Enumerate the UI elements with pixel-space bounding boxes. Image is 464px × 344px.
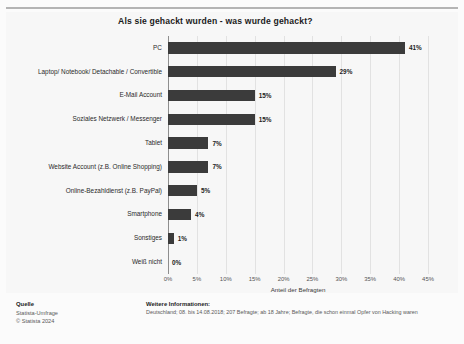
bar-row: E-Mail Account15% — [0, 84, 464, 108]
category-label: Tablet — [18, 139, 162, 147]
x-tick-label: 10% — [220, 276, 232, 282]
bar-value-label: 7% — [212, 163, 221, 170]
bar-row: Soziales Netzwerk / Messenger15% — [0, 107, 464, 131]
bar-series: PC41%Laptop/ Notebook/ Detachable / Conv… — [0, 36, 464, 274]
top-divider — [6, 7, 458, 9]
category-label: Smartphone — [18, 210, 162, 218]
bar-track: 4% — [168, 203, 204, 227]
category-label: Sonstiges — [18, 234, 162, 242]
bar-track: 0% — [168, 250, 181, 274]
bar-track: 29% — [168, 60, 352, 84]
bar-row: Website Account (z.B. Online Shopping)7% — [0, 155, 464, 179]
chart-card: Als sie gehackt wurden - was wurde gehac… — [0, 0, 464, 344]
bar-value-label: 29% — [340, 68, 353, 75]
source-name: Statista-Umfrage — [16, 309, 136, 317]
bar-track: 1% — [168, 226, 187, 250]
x-tick-label: 45% — [422, 276, 434, 282]
bar-value-label: 15% — [259, 116, 272, 123]
x-tick-label: 25% — [307, 276, 319, 282]
bar-row: Smartphone4% — [0, 203, 464, 227]
chart-title: Als sie gehackt wurden - was wurde gehac… — [118, 16, 378, 27]
notes-detail: Deutschland; 08. bis 14.08.2018; 207 Bef… — [146, 309, 458, 317]
category-label: Soziales Netzwerk / Messenger — [18, 115, 162, 123]
notes-heading: Weitere Informationen: — [146, 300, 458, 309]
bar — [168, 90, 255, 102]
bar-row: Laptop/ Notebook/ Detachable / Convertib… — [0, 60, 464, 84]
bar-value-label: 7% — [212, 140, 221, 147]
bar-value-label: 15% — [259, 92, 272, 99]
bar-value-label: 5% — [201, 187, 210, 194]
x-tick-label: 0% — [164, 276, 173, 282]
x-tick-label: 5% — [193, 276, 202, 282]
bar-track: 41% — [168, 36, 422, 60]
bar — [168, 185, 197, 197]
bar-row: PC41% — [0, 36, 464, 60]
bar — [168, 161, 208, 173]
x-axis-title: Anteil der Befragten — [168, 286, 428, 293]
bar-track: 7% — [168, 155, 222, 179]
bar — [168, 209, 191, 221]
bar-row: Tablet7% — [0, 131, 464, 155]
x-tick-label: 35% — [364, 276, 376, 282]
x-tick-label: 20% — [278, 276, 290, 282]
bar — [168, 137, 208, 149]
bar-value-label: 41% — [409, 44, 422, 51]
category-label: Weiß nicht — [18, 258, 162, 266]
bar-value-label: 0% — [172, 259, 181, 266]
category-label: PC — [18, 44, 162, 52]
x-tick-label: 15% — [249, 276, 261, 282]
notes-block: Weitere Informationen: Deutschland; 08. … — [146, 300, 458, 316]
bar-track: 5% — [168, 179, 210, 203]
x-tick-label: 30% — [335, 276, 347, 282]
bar — [168, 233, 174, 245]
category-label: Laptop/ Notebook/ Detachable / Convertib… — [18, 68, 162, 76]
bar-track: 15% — [168, 84, 271, 108]
plot-area: PC41%Laptop/ Notebook/ Detachable / Conv… — [0, 36, 464, 274]
category-label: E-Mail Account — [18, 91, 162, 99]
bar-row: Weiß nicht0% — [0, 250, 464, 274]
bar — [168, 114, 255, 126]
category-label: Website Account (z.B. Online Shopping) — [18, 163, 162, 171]
x-tick-label: 40% — [393, 276, 405, 282]
bar — [168, 66, 336, 78]
source-block: Quelle Statista-Umfrage © Statista 2024 — [16, 300, 136, 325]
source-heading: Quelle — [16, 300, 136, 309]
category-label: Online-Bezahldienst (z.B. PayPal) — [18, 187, 162, 195]
bar-track: 15% — [168, 107, 271, 131]
bar-row: Online-Bezahldienst (z.B. PayPal)5% — [0, 179, 464, 203]
bar-value-label: 1% — [178, 235, 187, 242]
bar-row: Sonstiges1% — [0, 226, 464, 250]
bar-value-label: 4% — [195, 211, 204, 218]
bar — [168, 42, 405, 54]
bar-track: 7% — [168, 131, 222, 155]
source-copyright: © Statista 2024 — [16, 317, 136, 325]
